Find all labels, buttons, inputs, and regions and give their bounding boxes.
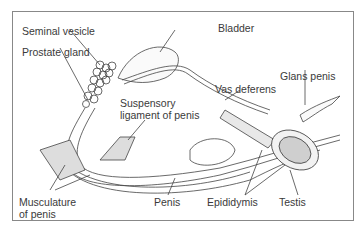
bladder-shape <box>118 47 178 82</box>
prostate-cluster <box>83 61 117 108</box>
label-vas-deferens: Vas deferens <box>215 83 276 95</box>
label-prostate-gland: Prostate gland <box>22 46 90 58</box>
label-glans-penis: Glans penis <box>280 70 335 82</box>
label-seminal-vesicle: Seminal vesicle <box>22 25 95 37</box>
label-epididymis: Epididymis <box>207 196 258 208</box>
label-suspensory: Suspensory <box>120 97 175 109</box>
label-bladder: Bladder <box>218 22 254 34</box>
label-musculature: Musculature <box>19 196 76 208</box>
label-of-penis: of penis <box>19 208 56 220</box>
label-suspensory-ligament: ligament of penis <box>120 109 199 121</box>
label-testis: Testis <box>279 196 306 208</box>
label-penis: Penis <box>154 196 180 208</box>
